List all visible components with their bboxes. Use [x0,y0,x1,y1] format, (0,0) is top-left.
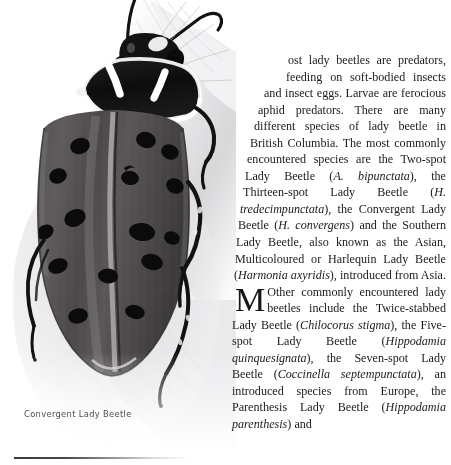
body-run: ) and [287,417,312,431]
beetle-illustration [0,0,236,452]
scientific-name: A. bipunctata [333,169,409,183]
article-body-text: ost lady beetles are predators, feeding … [232,53,446,431]
scientific-name: Chilocorus stigma [300,318,390,332]
illustration-caption: Convergent Lady Beetle [24,409,132,419]
article-column: Most lady beetles are predators, feeding… [232,52,446,433]
article-paragraph: Most lady beetles are predators, feeding… [232,52,446,433]
scientific-name: Harmonia axyridis [238,268,330,282]
scientific-name: H. convergens [278,218,350,232]
scientific-name: Coccinella septempunctata [278,367,417,381]
drop-cap: M [235,284,267,314]
footer-rule [14,457,190,459]
book-page: Convergent Lady Beetle Most lady beetles… [0,0,451,465]
photo-fade [0,352,236,452]
photo-left-fade [0,0,14,452]
